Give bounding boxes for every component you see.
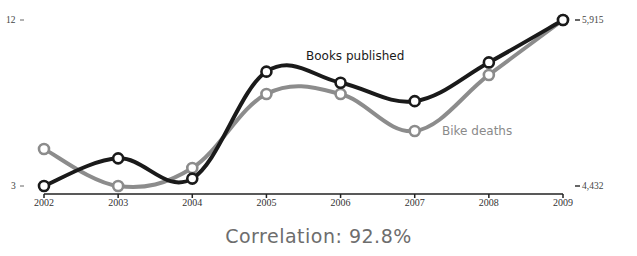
left-axis: 12 3: [6, 15, 24, 191]
books-series-label: Books published: [306, 49, 404, 63]
data-point-marker: [558, 15, 568, 25]
data-point-marker: [410, 96, 420, 106]
data-point-marker: [187, 163, 197, 173]
x-tick-label: 2002: [34, 197, 54, 208]
data-point-marker: [39, 181, 49, 191]
x-tick-label: 2008: [479, 197, 499, 208]
data-point-marker: [336, 89, 346, 99]
x-tick-label: 2007: [405, 197, 425, 208]
x-tick-label: 2009: [553, 197, 573, 208]
data-point-marker: [261, 89, 271, 99]
data-point-marker: [336, 78, 346, 88]
right-axis-bottom-label: 4,432: [582, 181, 604, 191]
data-point-marker: [187, 174, 197, 184]
data-point-marker: [113, 181, 123, 191]
x-axis: 20022003200420052006200720082009: [34, 194, 573, 208]
x-tick-label: 2004: [182, 197, 202, 208]
bikes-series-label: Bike deaths: [442, 124, 512, 138]
dual-axis-line-chart: 20022003200420052006200720082009 12 3 5,…: [0, 0, 637, 256]
data-point-marker: [261, 67, 271, 77]
x-tick-label: 2006: [331, 197, 351, 208]
x-tick-label: 2003: [108, 197, 128, 208]
data-point-marker: [39, 144, 49, 154]
left-axis-top-label: 12: [6, 15, 16, 25]
left-axis-bottom-label: 3: [11, 181, 16, 191]
correlation-annotation: Correlation: 92.8%: [0, 225, 637, 247]
data-point-marker: [410, 126, 420, 136]
data-point-marker: [484, 57, 494, 67]
right-axis: 5,915 4,432: [575, 15, 604, 191]
right-axis-top-label: 5,915: [582, 15, 604, 25]
x-tick-label: 2005: [256, 197, 276, 208]
data-point-marker: [484, 70, 494, 80]
data-point-marker: [113, 153, 123, 163]
books-series: [39, 15, 568, 191]
